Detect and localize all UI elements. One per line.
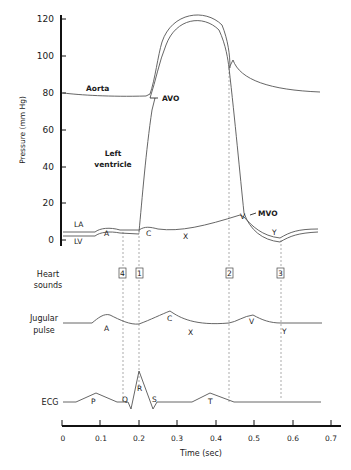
- heart-sound-2: 2: [227, 269, 232, 278]
- label-avo: AVO: [162, 94, 179, 103]
- label-lv: LV: [74, 237, 83, 246]
- ecg-wave-p: P: [91, 397, 96, 406]
- ecg-row: ECG P Q R S T: [42, 371, 321, 409]
- jugular-wave-x: X: [188, 328, 193, 337]
- heart-sounds-row: Heart sounds 4 1 2 3: [34, 268, 284, 290]
- y-axis-title: Pressure (mm Hg): [18, 96, 27, 164]
- heart-sound-3: 3: [278, 269, 283, 278]
- pressure-wave-x: X: [183, 232, 188, 241]
- label-aorta: Aorta: [86, 84, 109, 93]
- x-tick-0.4: 0.4: [210, 434, 222, 443]
- heart-sound-1: 1: [137, 269, 142, 278]
- y-tick-100: 100: [37, 51, 54, 61]
- x-axis-title: Time (sec): [179, 449, 222, 458]
- x-tick-0: 0: [61, 434, 66, 443]
- x-tick-0.7: 0.7: [325, 434, 337, 443]
- label-mvo: MVO: [258, 209, 278, 218]
- y-tick-40: 40: [43, 162, 55, 172]
- left-ventricle-trace: [63, 68, 318, 242]
- label-pulse: pulse: [33, 326, 55, 335]
- ecg-wave-r: R: [137, 384, 142, 393]
- y-tick-80: 80: [43, 88, 55, 98]
- jugular-pulse-row: Jugular pulse A C X V Y: [29, 311, 322, 337]
- x-tick-0.2: 0.2: [133, 434, 145, 443]
- pressure-axis: 120 100 80 60 40 20 0 Pressure (mm Hg): [18, 14, 66, 246]
- y-tick-120: 120: [37, 14, 54, 24]
- label-left: Left: [105, 149, 122, 158]
- label-jugular: Jugular: [29, 314, 59, 323]
- time-axis: 0 0.1 0.2 0.3 0.4 0.5 0.6 0.7 Time (sec): [61, 420, 341, 458]
- x-tick-0.6: 0.6: [287, 434, 299, 443]
- heart-sound-4: 4: [120, 269, 125, 278]
- label-ecg: ECG: [42, 398, 59, 407]
- pressure-wave-y: Y: [271, 228, 277, 237]
- jugular-wave-v: V: [249, 317, 255, 326]
- label-la: LA: [74, 220, 84, 229]
- x-tick-0.3: 0.3: [171, 434, 183, 443]
- jugular-wave-y: Y: [281, 327, 287, 336]
- jugular-wave-c: C: [167, 314, 172, 323]
- x-tick-0.5: 0.5: [248, 434, 260, 443]
- ecg-wave-t: T: [207, 397, 213, 406]
- mvo-arrow-icon: [250, 213, 256, 215]
- jugular-wave-a: A: [104, 324, 110, 333]
- x-tick-0.1: 0.1: [95, 434, 107, 443]
- label-ventricle: ventricle: [94, 160, 131, 169]
- y-tick-60: 60: [43, 125, 55, 135]
- ecg-wave-q: Q: [122, 395, 128, 404]
- pressure-wave-v: V: [240, 212, 246, 221]
- wiggers-diagram: 120 100 80 60 40 20 0 Pressure (mm Hg) A…: [0, 0, 351, 470]
- left-atrium-trace: [63, 215, 318, 238]
- ecg-wave-s: S: [152, 395, 157, 404]
- pressure-wave-a: A: [104, 229, 110, 238]
- pressure-wave-c: C: [146, 229, 151, 238]
- y-tick-20: 20: [43, 198, 55, 208]
- y-tick-0: 0: [48, 235, 54, 245]
- label-sounds: sounds: [34, 281, 62, 290]
- label-heart: Heart: [37, 270, 59, 279]
